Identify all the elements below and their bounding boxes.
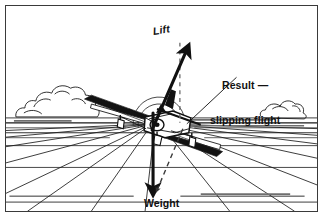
label-result: Result — slipping flight: [210, 56, 280, 150]
label-weight: Weight: [144, 198, 179, 210]
label-result-line2: slipping flight: [210, 115, 280, 127]
figure-frame: Lift Result — slipping flight Weight: [5, 5, 318, 212]
figure-root: Lift Result — slipping flight Weight: [0, 0, 323, 217]
label-result-line1: Result —: [210, 80, 280, 92]
